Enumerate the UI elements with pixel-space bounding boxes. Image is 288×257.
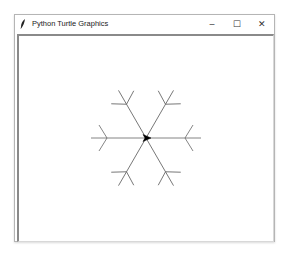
- turtle-canvas[interactable]: [17, 34, 274, 242]
- minimize-button[interactable]: –: [201, 15, 223, 33]
- close-button[interactable]: ✕: [251, 15, 273, 33]
- turtle-window: Python Turtle Graphics – ☐ ✕: [14, 14, 275, 242]
- maximize-button[interactable]: ☐: [226, 15, 248, 33]
- feather-icon: [20, 19, 26, 29]
- snowflake-icon: [91, 84, 201, 192]
- window-title: Python Turtle Graphics: [32, 19, 108, 28]
- snowflake-drawing: [19, 36, 273, 241]
- title-bar[interactable]: Python Turtle Graphics – ☐ ✕: [15, 15, 274, 33]
